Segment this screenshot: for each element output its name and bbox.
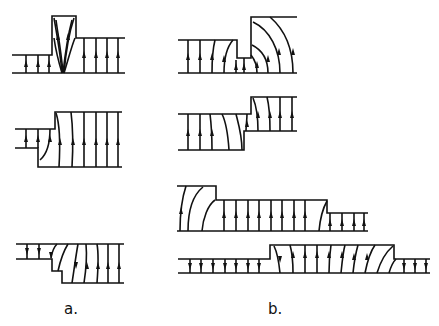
panel-b-bottom (178, 245, 430, 273)
panel-b-second (178, 97, 297, 150)
field-diagram (0, 0, 439, 326)
field-lines (188, 17, 293, 73)
field-lines (27, 244, 119, 283)
panel-b-third (177, 186, 368, 231)
panel-a-top (12, 16, 125, 73)
panel-a-middle (15, 112, 122, 167)
field-lines (190, 245, 426, 273)
field-lines (188, 97, 292, 150)
field-lines (26, 18, 118, 73)
panel-a-bottom (16, 244, 124, 283)
panel-b-label: b. (268, 300, 282, 318)
field-lines (180, 186, 364, 231)
field-lines (26, 112, 118, 167)
panel-a-label: a. (64, 300, 78, 318)
panel-b-top (178, 17, 297, 73)
